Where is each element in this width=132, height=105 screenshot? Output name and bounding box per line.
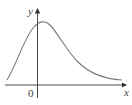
graph: y x 0 [0,0,132,105]
y-axis-label: y [27,5,33,17]
curve [7,22,122,80]
x-axis-label: x [123,86,129,98]
origin-label: 0 [28,87,34,99]
